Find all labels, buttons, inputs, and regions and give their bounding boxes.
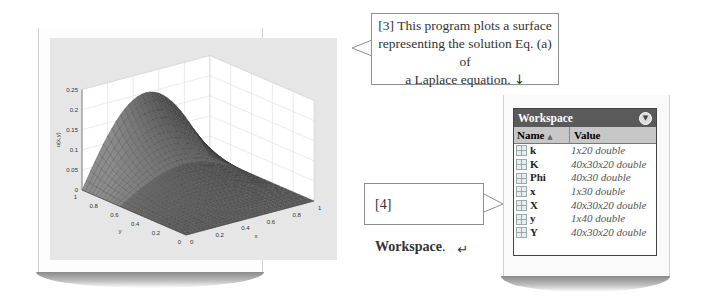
- workspace-variable-row[interactable]: X40x30x20 double: [514, 199, 656, 213]
- variable-name-cell: Phi: [514, 171, 569, 185]
- y-tick-label: 1: [74, 194, 78, 200]
- variable-name: x: [530, 185, 536, 199]
- z-tick-label: 0.15: [66, 127, 78, 133]
- return-arrow-icon: ↵: [457, 242, 468, 257]
- callout3-line2: representing the solution Eq. (a) of: [372, 35, 558, 71]
- x-tick-label: 0.8: [292, 212, 301, 218]
- callout-surface-description: [3] This program plots a surface represe…: [371, 13, 559, 85]
- variable-name: K: [530, 158, 539, 172]
- matrix-variable-icon: [516, 173, 527, 184]
- x-axis-label: x: [255, 233, 258, 239]
- callout4-bold: Workspace: [375, 239, 442, 254]
- variable-value: 40x30x20 double: [569, 158, 646, 172]
- variable-name: y: [530, 212, 536, 226]
- callout-workspace: [4] Workspace.↵: [364, 183, 484, 225]
- matrix-variable-icon: [516, 200, 527, 211]
- z-tick-label: 0: [75, 187, 79, 193]
- variable-value: 1x30 double: [569, 185, 625, 199]
- variable-name-cell: x: [514, 185, 569, 199]
- workspace-header: Name ▲ Value: [514, 127, 656, 144]
- workspace-variable-row[interactable]: Y40x30x20 double: [514, 226, 656, 240]
- z-axis-label: u(x,y): [55, 132, 61, 147]
- workspace-variable-row[interactable]: K40x30x20 double: [514, 158, 656, 172]
- sort-ascending-icon: ▲: [547, 133, 552, 141]
- matrix-variable-icon: [516, 227, 527, 238]
- matrix-variable-icon: [516, 145, 527, 156]
- y-tick-label: 0.2: [152, 230, 161, 236]
- variable-name: k: [530, 144, 536, 158]
- variable-value: 40x30x20 double: [569, 199, 646, 213]
- y-tick-label: 0.6: [110, 212, 119, 218]
- variable-value: 1x40 double: [569, 212, 625, 226]
- y-axis-label: y: [119, 228, 122, 234]
- figure-card-shadow: [36, 272, 264, 288]
- x-tick-label: 0.2: [216, 232, 225, 238]
- x-tick-label: 0: [190, 239, 194, 245]
- workspace-panel: Workspace ▼ Name ▲ Value k1x20 doubleK40…: [513, 108, 657, 256]
- workspace-variable-row[interactable]: k1x20 double: [514, 144, 656, 158]
- down-arrow-icon: ↓: [514, 72, 525, 87]
- surface-plot: 00.050.10.150.20.2500.20.40.60.8100.20.4…: [50, 38, 337, 260]
- variable-value: 40x30x20 double: [569, 226, 646, 240]
- variable-name-cell: Y: [514, 226, 569, 240]
- workspace-variable-row[interactable]: x1x30 double: [514, 185, 656, 199]
- column-header-name[interactable]: Name ▲: [514, 127, 570, 143]
- variable-name-cell: y: [514, 212, 569, 226]
- workspace-variable-row[interactable]: y1x40 double: [514, 212, 656, 226]
- workspace-title-bar: Workspace ▼: [514, 109, 656, 127]
- variable-name-cell: K: [514, 158, 569, 172]
- z-tick-label: 0.1: [70, 147, 79, 153]
- callout4-suffix: .: [442, 239, 446, 254]
- z-tick-label: 0.25: [66, 87, 78, 93]
- y-tick-label: 0: [178, 239, 182, 245]
- y-tick-label: 0.8: [89, 203, 98, 209]
- panel-menu-icon[interactable]: ▼: [639, 112, 652, 125]
- variable-name-cell: X: [514, 199, 569, 213]
- x-tick-label: 0.6: [267, 219, 276, 225]
- z-tick-label: 0.05: [66, 167, 78, 173]
- workspace-variable-row[interactable]: Phi40x30 double: [514, 171, 656, 185]
- variable-name-cell: k: [514, 144, 569, 158]
- matrix-variable-icon: [516, 159, 527, 170]
- variable-name: Y: [530, 226, 538, 240]
- callout3-line3: a Laplace equation.: [405, 72, 510, 87]
- y-tick-label: 0.4: [131, 221, 140, 227]
- workspace-card-shadow: [501, 276, 670, 292]
- matrix-variable-icon: [516, 214, 527, 225]
- workspace-title: Workspace: [518, 112, 573, 124]
- x-tick-label: 1: [318, 205, 322, 211]
- figure-area: 00.050.10.150.20.2500.20.40.60.8100.20.4…: [50, 38, 337, 260]
- variable-name: Phi: [530, 171, 546, 185]
- variable-name: X: [530, 199, 538, 213]
- z-tick-label: 0.2: [70, 107, 79, 113]
- matrix-variable-icon: [516, 186, 527, 197]
- column-header-value[interactable]: Value: [570, 127, 601, 143]
- workspace-variable-list: k1x20 doubleK40x30x20 doublePhi40x30 dou…: [514, 144, 656, 240]
- column-name-label: Name: [517, 129, 545, 141]
- x-tick-label: 0.4: [241, 225, 250, 231]
- callout4-prefix: [4]: [375, 197, 391, 212]
- variable-value: 1x20 double: [569, 144, 625, 158]
- variable-value: 40x30 double: [569, 171, 631, 185]
- callout3-line1: [3] This program plots a surface: [372, 17, 558, 35]
- callout4-pointer: [483, 192, 505, 216]
